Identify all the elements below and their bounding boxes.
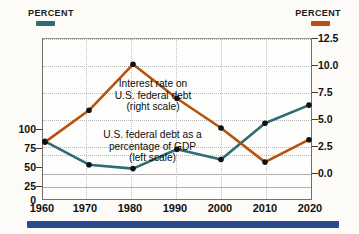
ylabel-right-2: 7.5 [318,86,333,98]
tickmark-left-75 [36,148,42,149]
tickmark-left-100 [36,129,42,130]
annotation-debt-line1: U.S. federal debt as a [70,129,235,141]
annotation-interest-rate: Interest rate on U.S. federal debt (righ… [78,78,228,113]
ylabel-left-0: 100 [2,123,36,135]
ylabel-left-2: 50 [2,161,36,173]
right-axis-header: Percent [295,8,341,18]
tickmark-left-25 [36,186,42,187]
annotation-debt-line2: percentage of GDP [70,141,235,153]
ylabel-right-1: 10.0 [318,59,338,71]
ylabel-left-3: 25 [2,180,36,192]
annotation-debt-line3: (left scale) [70,152,235,164]
ylabel-left-1: 75 [2,142,36,154]
plot-area [42,38,312,200]
ylabel-right-0: 12.5 [318,32,338,44]
ylabel-right-5: 0.0 [318,167,333,179]
annotation-interest-line1: Interest rate on [78,78,228,90]
series-lines [43,39,313,201]
left-series-swatch [36,21,55,26]
right-series-swatch [311,21,330,26]
chart-figure: Percent Percent 12.5 10.0 7.5 5.0 2.5 0.… [0,0,359,234]
tickmark-left-50 [36,167,42,168]
xlabel-1990: 1990 [152,202,198,214]
xlabel-1980: 1980 [107,202,153,214]
xlabel-2010: 2010 [242,202,288,214]
xlabel-1960: 1960 [19,202,65,214]
footer-bar [27,221,339,228]
annotation-interest-line2: U.S. federal debt [78,90,228,102]
xlabel-2000: 2000 [197,202,243,214]
annotation-federal-debt: U.S. federal debt as a percentage of GDP… [70,129,235,164]
left-axis-header: Percent [28,8,74,18]
xlabel-1970: 1970 [62,202,108,214]
annotation-interest-line3: (right scale) [78,101,228,113]
ylabel-right-3: 5.0 [318,113,333,125]
xlabel-2020: 2020 [287,202,333,214]
ylabel-right-4: 2.5 [318,140,333,152]
